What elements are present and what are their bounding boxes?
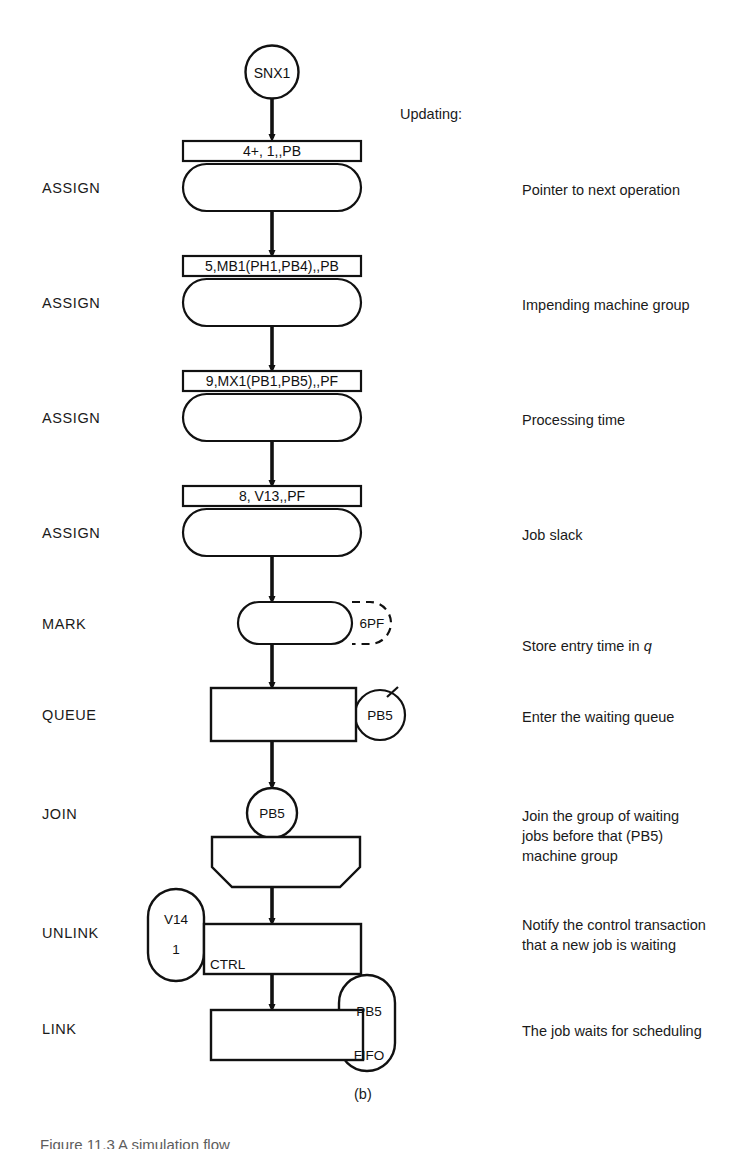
start-node-snx1: SNX1 [246, 46, 299, 99]
updating-heading: Updating: [400, 106, 462, 122]
block-type-label-assign-2: ASSIGN [42, 295, 100, 311]
annotation-mark-italic-var: q [644, 638, 652, 654]
block-type-label-assign-3: ASSIGN [42, 410, 100, 426]
block-operand-queue: PB5 [367, 708, 393, 723]
block-link: PB5 FIFO [211, 975, 395, 1071]
block-assign-2: 5,MB1(PH1,PB4),,PB [183, 256, 361, 326]
annotation-assign-2: Impending machine group [522, 295, 690, 315]
block-operand-2: 5,MB1(PH1,PB4),,PB [205, 258, 339, 274]
block-unlink: V14 1 CTRL [148, 889, 361, 981]
annotation-join: Join the group of waiting jobs before th… [522, 806, 679, 866]
block-operand-4: 8, V13,,PF [239, 488, 305, 504]
flowchart-canvas: SNX1 4+, 1,,PB 5,MB1(PH1,PB4),,PB 9,MX1(… [0, 0, 746, 1149]
block-assign-3: 9,MX1(PB1,PB5),,PF [183, 371, 361, 441]
block-operand-link-b: FIFO [354, 1048, 385, 1063]
block-operand-unlink-b: 1 [172, 942, 180, 957]
block-operand-1: 4+, 1,,PB [243, 143, 301, 159]
annotation-unlink: Notify the control transaction that a ne… [522, 915, 706, 955]
annotation-assign-4: Job slack [522, 525, 582, 545]
block-operand-3: 9,MX1(PB1,PB5),,PF [206, 373, 338, 389]
block-operand-unlink-c: CTRL [210, 957, 246, 972]
block-type-label-assign-1: ASSIGN [42, 180, 100, 196]
block-type-label-join: JOIN [42, 806, 77, 822]
block-operand-mark: 6PF [360, 616, 385, 631]
block-join: PB5 [212, 788, 360, 887]
block-assign-1: 4+, 1,,PB [183, 141, 361, 211]
block-type-label-link: LINK [42, 1021, 77, 1037]
block-assign-4: 8, V13,,PF [183, 486, 361, 556]
block-operand-link-a: PB5 [356, 1004, 382, 1019]
block-queue: PB5 [211, 687, 405, 741]
start-node-label: SNX1 [254, 65, 291, 81]
annotation-assign-3: Processing time [522, 410, 625, 430]
annotation-mark-text: Store entry time in [522, 638, 644, 654]
annotation-queue: Enter the waiting queue [522, 707, 674, 727]
block-mark: 6PF [238, 602, 391, 644]
annotation-assign-1: Pointer to next operation [522, 180, 680, 200]
block-type-label-mark: MARK [42, 616, 86, 632]
annotation-link: The job waits for scheduling [522, 1021, 702, 1041]
block-type-label-queue: QUEUE [42, 707, 97, 723]
figure-bottom-caption: Figure 11.3 A simulation flow [40, 1136, 460, 1149]
figure-page: SNX1 4+, 1,,PB 5,MB1(PH1,PB4),,PB 9,MX1(… [0, 0, 746, 1149]
block-operand-join: PB5 [259, 806, 285, 821]
block-type-label-unlink: UNLINK [42, 925, 99, 941]
block-operand-unlink-a: V14 [164, 912, 189, 927]
figure-caption: (b) [354, 1086, 372, 1102]
block-type-label-assign-4: ASSIGN [42, 525, 100, 541]
annotation-mark: Store entry time in q [522, 616, 652, 656]
